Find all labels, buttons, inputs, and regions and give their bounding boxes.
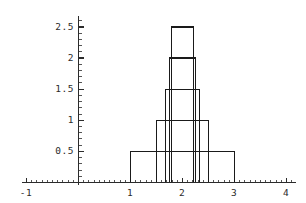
x-axis-tick-label: 1 [110, 188, 150, 198]
histogram-bar-outline [131, 151, 235, 182]
histogram-bar [131, 151, 235, 182]
x-axis-tick-label: 2 [162, 188, 202, 198]
histogram-bar-outline [172, 27, 194, 182]
y-axis-tick-label: 1 [68, 115, 74, 125]
chart-figure: 0.511.522.5 -11234 [0, 0, 306, 203]
plot-canvas [0, 0, 306, 203]
axis-layer [22, 16, 296, 185]
y-axis-tick-label: 0.5 [55, 146, 74, 156]
histogram-bar [172, 27, 194, 182]
histogram-bar [165, 89, 199, 182]
x-axis-tick-label: 3 [214, 188, 254, 198]
histogram-bars-layer [131, 27, 235, 182]
y-axis-tick-label: 2.5 [55, 22, 74, 32]
histogram-bar-outline [165, 89, 199, 182]
x-axis-tick-label: -1 [6, 188, 46, 198]
y-axis-tick-label: 1.5 [55, 84, 74, 94]
x-axis-tick-label: 4 [266, 188, 306, 198]
y-axis-tick-label: 2 [68, 53, 74, 63]
